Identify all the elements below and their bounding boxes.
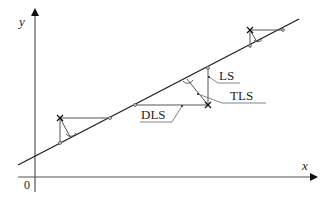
y-axis-label: y	[17, 14, 25, 29]
residual-triangle-2	[134, 67, 210, 107]
ls-label: LS	[219, 68, 234, 83]
residual-triangle-3	[249, 29, 285, 48]
dls-label: DLS	[141, 107, 166, 122]
x-axis-label: x	[301, 158, 308, 173]
origin-label: 0	[24, 178, 30, 192]
tls-label: TLS	[230, 88, 253, 103]
regression-diagram: y x 0 LS TLS DLS	[0, 0, 332, 197]
